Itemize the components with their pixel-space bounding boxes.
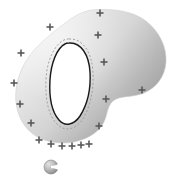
scientific-figure [0, 0, 182, 181]
plus-marker [47, 24, 54, 31]
figure-canvas [0, 0, 182, 181]
plus-marker [69, 143, 76, 150]
plus-marker [59, 143, 66, 150]
plus-marker [78, 142, 85, 149]
plus-marker [86, 141, 93, 148]
region-highlight-overlay [16, 9, 166, 143]
grey-sphere-marker [44, 160, 60, 174]
plus-marker [18, 50, 25, 57]
sphere-notch-bar [51, 166, 60, 169]
